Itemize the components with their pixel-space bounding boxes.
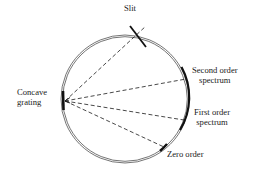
slit-label: Slit [124,4,136,14]
dashed-rays [65,26,186,147]
ray-to-first-order [65,101,184,120]
ray-to-zero-order [65,101,164,147]
first-order-spectrum-label: First order spectrum [194,108,230,127]
first-order-label-line2: spectrum [194,118,230,128]
ray-to-second-order [65,79,186,101]
concave-grating-label: Concave grating [17,88,47,107]
concave-grating-label-line2: grating [17,98,47,108]
ray-to-slit [65,26,146,101]
spectrum-arc [180,67,189,130]
concave-grating-bar [63,91,64,110]
second-order-label-line2: spectrum [192,76,238,86]
second-order-spectrum-label: Second order spectrum [192,66,238,85]
rowland-circle [61,35,189,163]
zero-order-label: Zero order [167,150,204,160]
slit-mark [130,26,146,47]
